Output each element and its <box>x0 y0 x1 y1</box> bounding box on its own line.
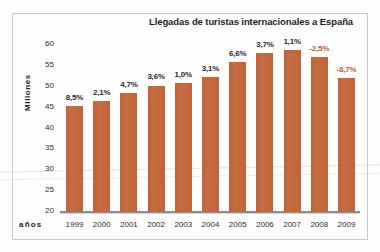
chart-figure: Llegadas de turistas internacionales a E… <box>0 0 380 252</box>
bar-2007 <box>284 50 301 212</box>
x-axis-tick-2009: 2009 <box>330 220 364 229</box>
bar-value-label-2000: 2,1% <box>85 88 119 97</box>
y-axis-tick-60: 60 <box>32 40 54 48</box>
bar-2000 <box>93 101 110 212</box>
bar-value-label-2009: -8,7% <box>330 65 364 74</box>
bar-2008 <box>311 57 328 212</box>
y-axis-tick-30: 30 <box>32 165 54 173</box>
bar-value-label-2008: -2,5% <box>302 44 336 53</box>
y-axis-tick-55: 55 <box>32 61 54 69</box>
x-axis-label: años <box>19 220 42 229</box>
y-axis-tick-45: 45 <box>32 103 54 111</box>
bar-2002 <box>148 86 165 213</box>
plot-area: 6055504540353025208,5%19992,1%20004,7%20… <box>60 44 360 212</box>
bar-value-label-2004: 3,1% <box>194 64 228 73</box>
x-axis-baseline-shadow <box>60 213 360 214</box>
bar-2006 <box>256 53 273 212</box>
y-axis-label: Millones <box>23 63 32 123</box>
y-axis-tick-20: 20 <box>32 207 54 215</box>
bar-2001 <box>120 93 137 212</box>
bar-value-label-2005: 6,6% <box>221 49 255 58</box>
chart-title: Llegadas de turistas internacionales a E… <box>140 16 362 27</box>
y-axis-tick-25: 25 <box>32 186 54 194</box>
y-axis-tick-40: 40 <box>32 124 54 132</box>
bar-2009 <box>338 78 355 212</box>
y-axis-tick-35: 35 <box>32 144 54 152</box>
bar-2003 <box>175 83 192 212</box>
bar-1999 <box>66 106 83 212</box>
bar-2004 <box>202 77 219 212</box>
y-axis-tick-50: 50 <box>32 82 54 90</box>
bar-2005 <box>229 62 246 212</box>
